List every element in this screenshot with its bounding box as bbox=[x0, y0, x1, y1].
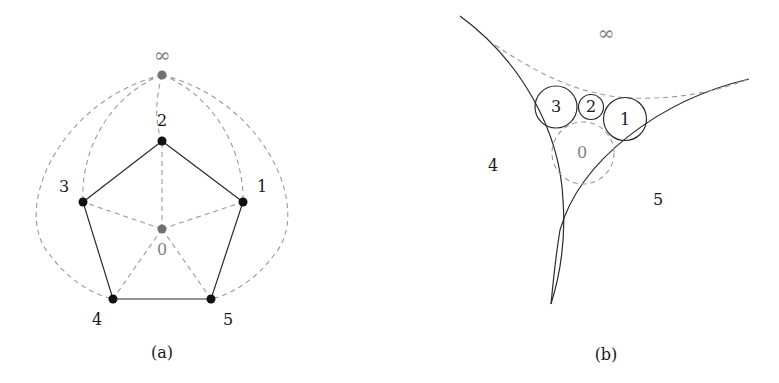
label-region-4: 4 bbox=[488, 156, 498, 175]
vertex-3 bbox=[79, 198, 88, 207]
label-vertex-4: 4 bbox=[92, 310, 102, 329]
dashed-edge-0-5 bbox=[162, 229, 211, 299]
panel-b-circle-packing: ∞ 3 2 1 0 4 5 (b) bbox=[460, 16, 749, 364]
label-circle-2: 2 bbox=[586, 97, 596, 116]
vertex-infinity bbox=[158, 71, 167, 80]
dashed-edge-inf-5 bbox=[162, 75, 288, 299]
circle-5-boundary bbox=[551, 79, 749, 304]
dashed-edge-inf-2 bbox=[157, 75, 162, 141]
label-circle-3: 3 bbox=[551, 97, 561, 116]
vertex-5 bbox=[207, 295, 216, 304]
dashed-edge-0-1 bbox=[162, 202, 243, 229]
label-vertex-2: 2 bbox=[157, 111, 167, 130]
label-vertex-5: 5 bbox=[223, 310, 233, 329]
vertex-1 bbox=[239, 198, 248, 207]
dashed-edge-inf-3 bbox=[83, 75, 162, 202]
pentagon-edges bbox=[83, 141, 243, 299]
dashed-edge-0-3 bbox=[83, 202, 162, 229]
label-infinity-b: ∞ bbox=[598, 21, 615, 45]
label-circle-0: 0 bbox=[577, 143, 587, 162]
dashed-infinity-arc bbox=[495, 45, 749, 98]
label-vertex-1: 1 bbox=[257, 177, 267, 196]
circle-4-boundary bbox=[460, 16, 564, 304]
dashed-edge-inf-4 bbox=[36, 75, 162, 299]
label-vertex-3: 3 bbox=[59, 177, 69, 196]
vertex-0 bbox=[158, 225, 167, 234]
figure-canvas: ∞ 2 3 1 0 4 5 (a) ∞ 3 2 1 0 4 5 (b) bbox=[0, 0, 779, 383]
label-infinity-a: ∞ bbox=[154, 43, 171, 67]
vertex-2 bbox=[158, 137, 167, 146]
dashed-edge-0-4 bbox=[113, 229, 162, 299]
label-circle-1: 1 bbox=[620, 110, 630, 129]
label-region-5: 5 bbox=[653, 190, 663, 209]
label-vertex-0: 0 bbox=[157, 240, 167, 259]
dashed-edge-inf-1 bbox=[162, 75, 243, 202]
caption-b: (b) bbox=[595, 345, 618, 364]
caption-a: (a) bbox=[151, 343, 173, 362]
panel-a-graph: ∞ 2 3 1 0 4 5 (a) bbox=[36, 43, 288, 362]
vertex-4 bbox=[109, 295, 118, 304]
